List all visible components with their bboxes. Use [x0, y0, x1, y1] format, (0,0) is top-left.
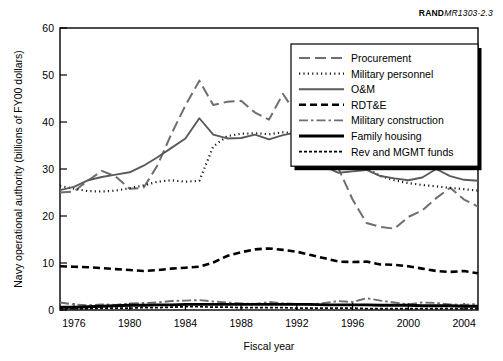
legend-label: Procurement	[351, 52, 411, 64]
series-line	[60, 248, 478, 273]
x-tick-label: 1996	[341, 317, 365, 329]
y-tick-label: 50	[42, 69, 54, 81]
y-axis-ticks: 0102030405060	[42, 22, 67, 316]
y-tick-label: 0	[48, 304, 54, 316]
figure-container: RANDMR1303-2.3 0102030405060 19761980198…	[0, 0, 503, 361]
axis-titles: Fiscal yearNavy operational authority (b…	[12, 50, 295, 352]
line-chart: 0102030405060 19761980198419881992199620…	[0, 0, 503, 361]
y-axis-title: Navy operational authority (billions of …	[12, 50, 24, 288]
y-tick-label: 40	[42, 116, 54, 128]
x-tick-label: 1976	[62, 317, 86, 329]
x-tick-label: 1988	[229, 317, 253, 329]
series-line	[60, 307, 478, 309]
legend-label: RDT&E	[351, 99, 387, 111]
x-tick-label: 1980	[118, 317, 142, 329]
chart-legend: ProcurementMilitary personnelO&MRDT&EMil…	[291, 44, 482, 170]
legend-label: O&M	[351, 83, 375, 95]
legend-label: Military personnel	[351, 68, 433, 80]
x-tick-label: 1992	[285, 317, 309, 329]
legend-label: Military construction	[351, 114, 444, 126]
y-tick-label: 30	[42, 163, 54, 175]
x-axis-title: Fiscal year	[244, 340, 295, 352]
y-tick-label: 60	[42, 22, 54, 34]
y-tick-label: 20	[42, 210, 54, 222]
y-tick-label: 10	[42, 257, 54, 269]
legend-label: Rev and MGMT funds	[351, 146, 454, 158]
series-line	[60, 304, 478, 307]
legend-label: Family housing	[351, 130, 422, 142]
x-tick-label: 2000	[397, 317, 421, 329]
x-tick-label: 2004	[452, 317, 476, 329]
x-tick-label: 1984	[174, 317, 198, 329]
